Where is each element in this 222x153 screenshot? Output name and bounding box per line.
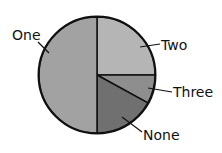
label-one: One <box>12 27 41 43</box>
label-none: None <box>143 127 180 143</box>
label-three: Three <box>172 84 213 100</box>
pie-chart: One Two Three None <box>0 0 222 153</box>
label-two: Two <box>160 37 187 53</box>
pie-slices <box>39 17 155 133</box>
pie-slice-one <box>39 17 97 133</box>
